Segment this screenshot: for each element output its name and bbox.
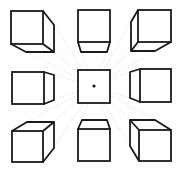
cube-middle-left (12, 72, 54, 104)
cube-edge (78, 120, 110, 129)
cube-edge (43, 44, 54, 52)
cube-drawing (0, 0, 179, 177)
cube-front-face (139, 130, 171, 161)
cube-front-face (12, 72, 44, 104)
cube-front-face (140, 69, 171, 102)
cube-edge (78, 42, 110, 52)
cube-front-face (11, 11, 43, 44)
cube-top-center (78, 10, 110, 52)
cube-front-face (78, 129, 110, 161)
cube-edge (12, 122, 54, 131)
perspective-diagram (0, 0, 179, 177)
cube-top-right (131, 10, 171, 51)
cube-bottom-left (12, 122, 54, 162)
cube-bottom-right (130, 120, 171, 161)
cube-top-left (11, 11, 54, 52)
vanishing-point (92, 84, 95, 87)
cube-front-face (12, 131, 43, 162)
cube-edge (130, 69, 140, 102)
cube-bottom-center (78, 120, 110, 161)
cube-grid (11, 10, 171, 162)
cube-front-face (138, 10, 171, 42)
cube-front-face (78, 10, 110, 42)
cube-edge (130, 120, 171, 130)
cube-middle-right (130, 69, 171, 102)
cube-edge (43, 122, 54, 162)
cube-edge (131, 42, 138, 51)
cube-edge (44, 72, 54, 104)
